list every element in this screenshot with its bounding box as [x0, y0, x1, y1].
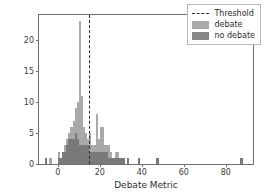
y-tick-label: 15 — [24, 66, 34, 75]
x-tick-label: 0 — [55, 168, 60, 177]
histogram-figure: 020406080 05101520 Debate Metric Counts … — [0, 0, 265, 194]
y-tick — [36, 164, 39, 165]
threshold-line — [89, 15, 90, 164]
legend-label: debate — [214, 20, 242, 29]
x-tick-label: 40 — [137, 168, 147, 177]
y-tick — [36, 40, 39, 41]
legend-label: no debate — [214, 31, 255, 40]
legend-item-no-debate: no debate — [192, 30, 255, 41]
y-tick — [36, 71, 39, 72]
swatch-icon — [192, 21, 209, 29]
histogram-bar — [123, 158, 125, 164]
histogram-bar — [138, 158, 140, 164]
histogram-bar — [240, 158, 242, 164]
x-axis-label: Debate Metric — [38, 180, 254, 190]
legend-item-threshold: Threshold — [192, 8, 255, 19]
y-tick-label: 20 — [24, 35, 34, 44]
legend-label: Threshold — [214, 9, 253, 18]
x-tick — [142, 164, 143, 167]
y-tick-label: 0 — [29, 160, 34, 169]
histogram-bar — [127, 158, 129, 164]
y-tick-label: 5 — [29, 128, 34, 137]
x-tick — [100, 164, 101, 167]
swatch-icon — [192, 32, 209, 40]
y-tick — [36, 133, 39, 134]
x-tick-label: 80 — [221, 168, 231, 177]
x-tick — [226, 164, 227, 167]
histogram-bar — [156, 158, 158, 164]
y-axis-label: Counts — [0, 73, 1, 104]
y-tick-label: 10 — [24, 97, 34, 106]
dashed-line-icon — [192, 13, 209, 14]
x-tick — [184, 164, 185, 167]
x-tick-label: 20 — [95, 168, 105, 177]
legend-item-debate: debate — [192, 19, 255, 30]
legend: Threshold debate no debate — [187, 4, 261, 45]
histogram-bar — [45, 158, 47, 164]
y-tick — [36, 102, 39, 103]
x-tick — [58, 164, 59, 167]
x-tick-label: 60 — [179, 168, 189, 177]
histogram-bar — [49, 158, 51, 164]
